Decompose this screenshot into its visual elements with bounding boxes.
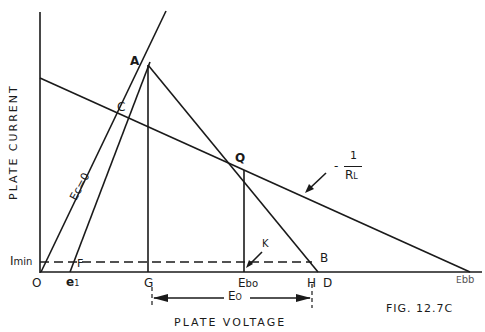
label-k: K: [262, 239, 269, 249]
label-f: F: [77, 258, 83, 269]
e1-sub: 1: [74, 279, 79, 288]
e1-main: e: [66, 275, 74, 289]
label-eo: EO: [228, 290, 242, 302]
x-axis-label: PLATE VOLTAGE: [174, 316, 286, 329]
slope-sign: -: [334, 160, 338, 172]
eo-left-arrowhead-icon: [153, 294, 168, 302]
load-line: [40, 78, 470, 272]
eo-main: E: [228, 289, 236, 303]
eo-right-arrowhead-icon: [296, 294, 311, 302]
label-b: B: [320, 252, 328, 264]
a-to-d-line: [148, 65, 318, 272]
imin-sub: min: [14, 256, 33, 267]
load-line-slope-label: - 1 RL: [334, 152, 364, 184]
label-d: D: [323, 277, 332, 289]
label-e1: e1: [66, 276, 79, 288]
label-ebo: Ebo: [238, 277, 258, 289]
label-h: H: [307, 277, 316, 289]
e1-to-a-line: [70, 62, 150, 272]
label-ebb: Ebb: [456, 275, 474, 285]
label-imin: Imin: [10, 255, 32, 267]
ebo-sub: bo: [246, 278, 258, 289]
label-a: A: [130, 55, 139, 67]
slope-den-sub: L: [353, 172, 357, 181]
label-c: C: [117, 101, 125, 113]
eo-sub: O: [236, 293, 242, 302]
y-axis-label: PLATE CURRENT: [7, 84, 20, 200]
figure-caption: FIG. 12.7C: [386, 302, 453, 315]
slope-denominator: RL: [345, 169, 358, 181]
slope-numerator: 1: [350, 150, 357, 161]
ebb-sub: bb: [462, 274, 475, 285]
label-g: G: [144, 277, 153, 289]
ebo-main: E: [238, 276, 246, 290]
label-q: Q: [235, 152, 245, 164]
label-origin: O: [32, 277, 41, 289]
